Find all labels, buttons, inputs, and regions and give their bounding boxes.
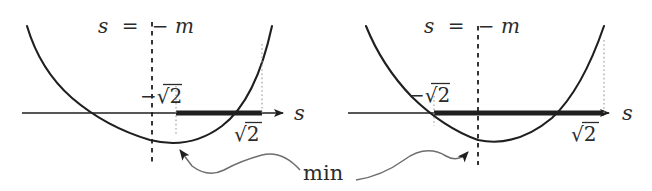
left-root-label-right-panel: −√2 [408, 83, 450, 107]
diagram-canvas: s = − m −√2 √2 s s = [0, 0, 652, 191]
vertical-line-label-right: s = − m [424, 14, 520, 38]
panel-right: s = − m −√2 √2 s [348, 14, 633, 165]
right-root-label-right-panel: √2 [571, 122, 596, 146]
right-root-label-left-panel: √2 [234, 122, 259, 146]
parabola-curve-right [366, 26, 604, 142]
min-label: min [303, 161, 343, 185]
axis-label-left: s [294, 101, 305, 125]
connector-to-right-minimum [356, 151, 468, 180]
left-root-label-left-panel: −√2 [140, 84, 182, 108]
axis-label-right: s [622, 101, 633, 125]
figure-root: s = − m −√2 √2 s s = [0, 0, 652, 191]
min-annotation-group: min [180, 150, 468, 185]
connector-to-left-minimum [180, 150, 300, 173]
panel-left: s = − m −√2 √2 s [22, 14, 305, 162]
vertical-line-label-left: s = − m [98, 14, 194, 38]
